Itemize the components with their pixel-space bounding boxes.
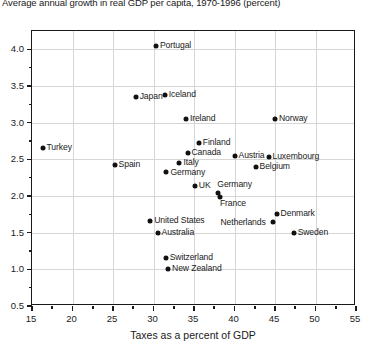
x-axis-tick	[112, 306, 114, 311]
data-point	[163, 256, 168, 261]
gridline-vertical	[235, 31, 236, 304]
x-axis-minor-tick	[51, 306, 53, 309]
data-point-label: Norway	[279, 113, 308, 123]
data-point	[273, 117, 278, 122]
y-axis-tick	[27, 305, 32, 307]
y-axis-tick	[27, 159, 32, 161]
y-axis-tick-label: 2.0	[0, 190, 24, 201]
data-point	[192, 184, 197, 189]
y-axis-tick-label: 4.0	[0, 43, 24, 54]
y-axis-tick	[27, 232, 32, 234]
x-axis-minor-tick	[173, 306, 175, 309]
x-axis-tick	[315, 306, 317, 311]
data-point-label: Denmark	[281, 208, 315, 218]
data-point	[185, 151, 190, 156]
data-point-label: UK	[199, 180, 211, 190]
x-axis-title: Taxes as a percent of GDP	[31, 329, 355, 341]
data-point	[232, 153, 237, 158]
gridline-vertical	[154, 31, 155, 304]
data-point-label: Iceland	[169, 89, 196, 99]
x-axis-minor-tick	[335, 306, 337, 309]
y-axis-minor-tick	[29, 104, 32, 106]
y-axis-tick-label: 1.5	[0, 226, 24, 237]
x-axis-tick-label: 20	[66, 313, 77, 324]
data-point	[183, 117, 188, 122]
x-axis-tick-label: 50	[309, 313, 320, 324]
data-point-label: New Zealand	[172, 263, 222, 273]
x-axis-tick-label: 55	[350, 313, 361, 324]
y-axis-minor-tick	[29, 250, 32, 252]
gridline-vertical	[73, 31, 74, 304]
x-axis-tick	[355, 306, 357, 311]
data-point	[164, 169, 169, 174]
y-axis-tick	[27, 195, 32, 197]
gridline-horizontal	[32, 196, 354, 197]
data-point	[40, 146, 45, 151]
data-point	[253, 164, 258, 169]
data-point	[148, 218, 153, 223]
gridline-vertical	[316, 31, 317, 304]
data-point	[153, 43, 158, 48]
y-axis-tick-label: 2.5	[0, 153, 24, 164]
data-point-label: Germany	[217, 179, 252, 189]
x-axis-minor-tick	[254, 306, 256, 309]
data-point-label: Portugal	[160, 40, 191, 50]
data-point	[266, 155, 271, 160]
x-axis-minor-tick	[132, 306, 134, 309]
x-axis-tick-label: 15	[26, 313, 37, 324]
x-axis-tick-label: 25	[107, 313, 118, 324]
y-axis-minor-tick	[29, 140, 32, 142]
data-point	[162, 92, 167, 97]
data-point-label: Austria	[239, 150, 265, 160]
x-axis-tick	[72, 306, 74, 311]
scatter-chart-figure: Average annual growth in real GDP per ca…	[0, 0, 368, 347]
data-point-label: United States	[154, 215, 204, 225]
x-axis-tick-label: 30	[147, 313, 158, 324]
data-point	[112, 163, 117, 168]
x-axis-tick-label: 45	[269, 313, 280, 324]
data-point-label: Italy	[183, 157, 198, 167]
x-axis-tick	[274, 306, 276, 311]
y-axis-tick	[27, 122, 32, 124]
y-axis-tick	[27, 49, 32, 51]
data-point-label: Luxembourg	[273, 151, 320, 161]
y-axis-tick	[27, 85, 32, 87]
data-point	[291, 230, 296, 235]
data-point-label: Netherlands	[220, 217, 265, 227]
gridline-horizontal	[32, 49, 354, 50]
gridline-horizontal	[32, 86, 354, 87]
data-point	[166, 267, 171, 272]
data-point-label: Turkey	[47, 142, 72, 152]
chart-title: Average annual growth in real GDP per ca…	[2, 0, 280, 8]
y-axis-minor-tick	[29, 214, 32, 216]
y-axis-minor-tick	[29, 287, 32, 289]
x-axis-minor-tick	[92, 306, 94, 309]
data-point-label: Switzerland	[170, 252, 213, 262]
y-axis-tick-label: 3.5	[0, 80, 24, 91]
y-axis-tick-label: 0.5	[0, 300, 24, 311]
y-axis-minor-tick	[29, 67, 32, 69]
x-axis-tick	[234, 306, 236, 311]
data-point-label: Finland	[203, 137, 231, 147]
y-axis-minor-tick	[29, 177, 32, 179]
x-axis-minor-tick	[213, 306, 215, 309]
data-point	[271, 220, 276, 225]
data-point	[133, 95, 138, 100]
data-point-label: Ireland	[190, 113, 216, 123]
x-axis-minor-tick	[294, 306, 296, 309]
data-point-label: Spain	[119, 159, 140, 169]
data-point	[196, 141, 201, 146]
y-axis-tick-label: 1.0	[0, 263, 24, 274]
data-point-label: Japan	[140, 91, 163, 101]
data-point-label: Sweden	[298, 227, 328, 237]
data-point-label: Canada	[192, 147, 222, 157]
data-point-label: Belgium	[260, 161, 290, 171]
data-point-label: France	[220, 198, 246, 208]
data-point	[155, 230, 160, 235]
data-point	[177, 161, 182, 166]
data-point-label: Germany	[170, 167, 205, 177]
x-axis-tick	[193, 306, 195, 311]
data-point	[274, 212, 279, 217]
y-axis-tick	[27, 269, 32, 271]
y-axis-tick-label: 3.0	[0, 116, 24, 127]
